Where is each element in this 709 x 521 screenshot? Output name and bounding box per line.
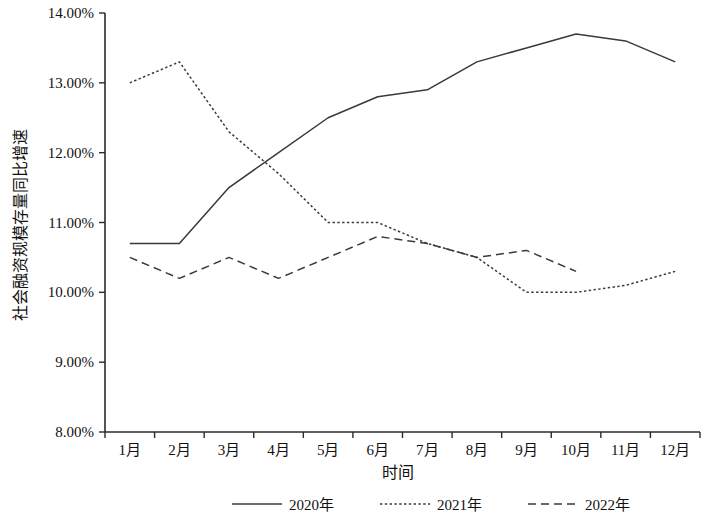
y-axis-tick-labels: 14.00%13.00%12.00%11.00%10.00%9.00%8.00% bbox=[48, 5, 94, 440]
x-tick-label: 8月 bbox=[466, 442, 489, 458]
y-tick-label: 11.00% bbox=[48, 215, 94, 231]
y-tick-label: 12.00% bbox=[48, 145, 94, 161]
x-tick-label: 7月 bbox=[416, 442, 439, 458]
y-tick-label: 8.00% bbox=[55, 424, 94, 440]
x-axis-tick-labels: 1月2月3月4月5月6月7月8月9月10月11月12月 bbox=[119, 442, 691, 458]
y-axis-title: 社会融资规模存量同比增速 bbox=[12, 129, 29, 321]
x-tick-label: 9月 bbox=[515, 442, 538, 458]
x-tick-label: 11月 bbox=[611, 442, 640, 458]
y-tick-label: 14.00% bbox=[48, 5, 94, 21]
x-tick-label: 6月 bbox=[366, 442, 389, 458]
series-line-2022年 bbox=[130, 236, 576, 278]
y-tick-label: 9.00% bbox=[55, 354, 94, 370]
line-chart: 14.00%13.00%12.00%11.00%10.00%9.00%8.00%… bbox=[0, 0, 709, 521]
x-tick-label: 12月 bbox=[660, 442, 690, 458]
y-tick-label: 13.00% bbox=[48, 75, 94, 91]
y-tick-label: 10.00% bbox=[48, 284, 94, 300]
series-line-2020年 bbox=[130, 34, 675, 244]
chart-container: 14.00%13.00%12.00%11.00%10.00%9.00%8.00%… bbox=[0, 0, 709, 521]
chart-legend: 2020年2021年2022年 bbox=[232, 497, 630, 513]
x-tick-label: 2月 bbox=[168, 442, 191, 458]
series-line-2021年 bbox=[130, 62, 675, 292]
x-tick-label: 5月 bbox=[317, 442, 340, 458]
legend-label-2020年: 2020年 bbox=[289, 497, 334, 513]
legend-label-2022年: 2022年 bbox=[585, 497, 630, 513]
x-axis-tick-marks bbox=[105, 432, 700, 438]
x-tick-label: 10月 bbox=[561, 442, 591, 458]
x-axis-title: 时间 bbox=[382, 464, 414, 481]
x-tick-label: 1月 bbox=[119, 442, 142, 458]
series-lines bbox=[130, 34, 675, 292]
x-tick-label: 4月 bbox=[267, 442, 290, 458]
legend-label-2021年: 2021年 bbox=[437, 497, 482, 513]
x-tick-label: 3月 bbox=[218, 442, 241, 458]
y-axis-tick-marks bbox=[99, 13, 105, 432]
